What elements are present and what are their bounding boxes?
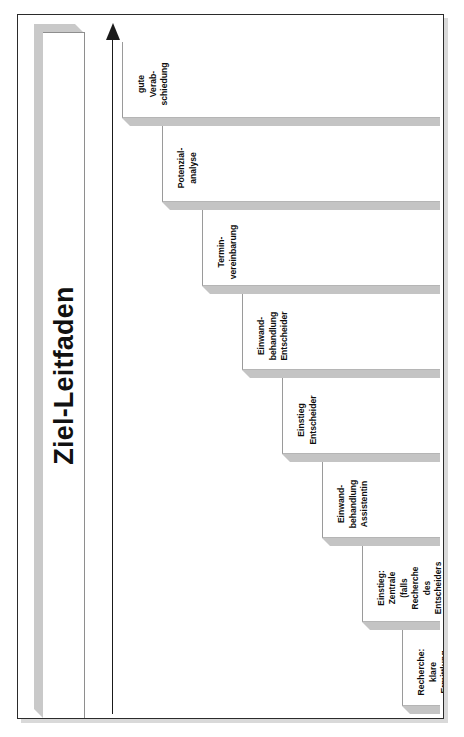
arrow-head-icon: [106, 23, 120, 40]
page-title: Ziel-Leitfaden: [46, 33, 82, 718]
title-band: Ziel-Leitfaden: [28, 15, 90, 718]
step-label: Termin- vereinbarung: [216, 214, 239, 290]
diagram-viewport: Ziel-Leitfaden Recherche: klare Ermittlu…: [18, 15, 443, 718]
step-label: Einstieg Entscheider: [296, 382, 319, 458]
axis-line: [112, 35, 113, 714]
step-label: gute Verab- schiedung: [136, 46, 171, 122]
page-root: Ziel-Leitfaden Recherche: klare Ermittlu…: [0, 0, 464, 737]
staircase-chart: Recherche: klare Ermittlung des Entschei…: [122, 15, 440, 718]
progress-axis: [106, 23, 120, 714]
step-label: Recherche: klare Ermittlung des Entschei…: [416, 634, 443, 710]
step-label: Einstieg: Zentrale (falls Recherche des …: [376, 550, 443, 626]
staircase-step-8: gute Verab- schiedung: [122, 42, 440, 126]
staircase-step-7: Potenzial- analyse: [162, 126, 440, 210]
staircase-step-4: Einstieg Entscheider: [282, 378, 440, 462]
staircase-step-2: Einstieg: Zentrale (falls Recherche des …: [362, 546, 440, 630]
staircase-step-5: Einwand- behandlung Entscheider: [242, 294, 440, 378]
step-label: Potenzial- analyse: [176, 130, 199, 206]
step-tread: [162, 126, 440, 202]
step-label: Einwand- behandlung Entscheider: [256, 298, 291, 374]
staircase-step-3: Einwand- behandlung Assistentin: [322, 462, 440, 546]
staircase-step-1: Recherche: klare Ermittlung des Entschei…: [402, 630, 440, 714]
step-label: Einwand- behandlung Assistentin: [336, 466, 371, 542]
diagram-canvas: Ziel-Leitfaden Recherche: klare Ermittlu…: [18, 15, 443, 718]
staircase-step-6: Termin- vereinbarung: [202, 210, 440, 294]
